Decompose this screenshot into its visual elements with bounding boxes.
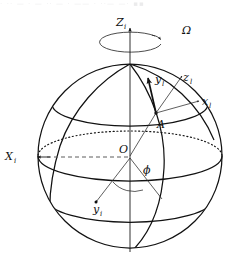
label-local-y: y l — [154, 73, 164, 88]
label-local-y-base: y — [154, 73, 162, 86]
label-local-x-base: x — [202, 95, 209, 108]
label-origin: O — [119, 143, 128, 156]
radius-o-to-a-line — [130, 113, 156, 156]
label-inertial-z-sub: i — [124, 23, 126, 31]
label-local-y-sub: l — [162, 80, 164, 88]
rotation-arrow-head-path — [152, 35, 161, 39]
label-local-z-base: z — [182, 71, 189, 84]
phi-arc — [113, 182, 143, 191]
label-local-x: x l — [202, 95, 211, 110]
radius-to-a-group — [130, 113, 156, 156]
meridian-left-limb — [50, 64, 130, 230]
label-inertial-y-sub: i — [100, 210, 102, 218]
figure-root: · ·· — · — ·· — · —— · ··— —· ▪▪ — [0, 0, 250, 272]
label-inertial-z: Z i — [115, 16, 126, 31]
label-longitude-angle: ϕ — [143, 164, 151, 177]
label-inertial-z-base: Z — [115, 16, 124, 29]
label-inertial-x-base: X — [4, 150, 14, 163]
local-x-axis-arrow — [156, 101, 199, 113]
meridian-group — [50, 64, 214, 249]
label-local-z-sub: l — [190, 78, 192, 86]
label-inertial-x-sub: i — [14, 157, 16, 165]
label-group: Ω Z i X i y i O ϕ A x — [4, 16, 211, 218]
label-inertial-x: X i — [4, 150, 16, 165]
label-inertial-y: y i — [92, 203, 102, 218]
longitude-angle-group — [113, 158, 162, 199]
label-angular-velocity: Ω — [181, 24, 191, 37]
label-local-z: z l — [182, 71, 192, 86]
sphere-diagram-canvas: Ω Z i X i y i O ϕ A x — [0, 0, 250, 272]
label-point-a: A — [156, 118, 165, 131]
label-inertial-y-base: y — [92, 203, 100, 216]
label-local-x-sub: l — [209, 102, 211, 110]
